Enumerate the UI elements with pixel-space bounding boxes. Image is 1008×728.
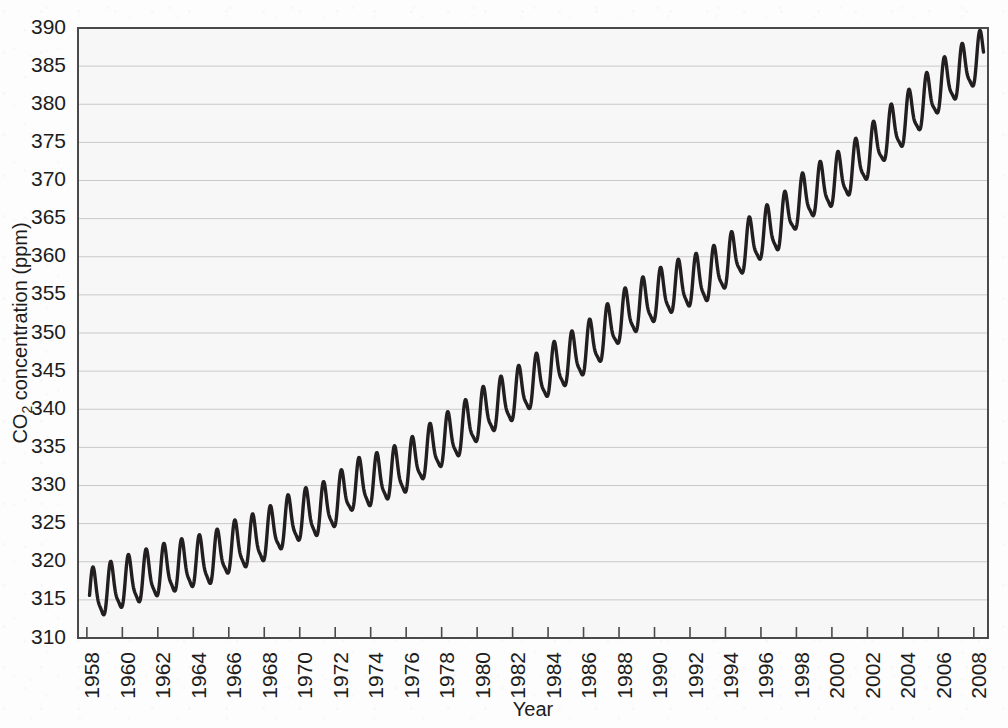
y-axis-tick-label: 340	[31, 396, 66, 419]
x-axis-tick-label: 2008	[967, 652, 990, 699]
x-axis-tick-label: 1984	[542, 652, 565, 699]
y-axis-tick-label: 390	[31, 15, 66, 38]
x-axis-tick-label: 1970	[293, 652, 316, 699]
chart-page: 3103153203253303353403453503553603653703…	[0, 0, 1008, 728]
y-axis-tick-label: 355	[31, 281, 66, 304]
x-axis-tick-label: 2002	[861, 652, 884, 699]
x-axis-title: Year	[513, 698, 554, 720]
x-axis-tick-label: 2000	[825, 652, 848, 699]
x-axis-tick-label: 1986	[577, 652, 600, 699]
x-axis-tick-label: 1958	[80, 652, 103, 699]
x-axis-tick-label: 1998	[790, 652, 813, 699]
x-axis-tick-label: 2006	[932, 652, 955, 699]
y-axis-tick-label: 350	[31, 320, 66, 343]
x-axis-tick-label: 1982	[506, 652, 529, 699]
x-axis-tick-label: 1996	[754, 652, 777, 699]
y-axis-tick-label: 315	[31, 586, 66, 609]
x-axis-tick-labels: 1958196019621964196619681970197219741976…	[80, 652, 990, 699]
y-axis-tick-label: 385	[31, 53, 66, 76]
x-axis-tick-label: 1962	[151, 652, 174, 699]
y-axis-tick-label: 365	[31, 205, 66, 228]
x-axis-tick-label: 1978	[435, 652, 458, 699]
x-axis-tick-label: 1966	[222, 652, 245, 699]
y-axis-tick-label: 310	[31, 625, 66, 648]
y-axis-tick-label: 360	[31, 243, 66, 266]
x-axis-tick-label: 1968	[258, 652, 281, 699]
x-axis-tick-label: 1974	[364, 652, 387, 699]
y-axis-tick-label: 345	[31, 358, 66, 381]
x-axis-tick-label: 1960	[116, 652, 139, 699]
x-axis-tick-label: 1990	[648, 652, 671, 699]
x-axis-tick-label: 1964	[187, 652, 210, 699]
y-axis-tick-labels: 3103153203253303353403453503553603653703…	[31, 15, 66, 648]
y-axis-title-prefix: CO	[9, 414, 31, 444]
x-axis-tick-label: 1972	[329, 652, 352, 699]
y-axis-tick-label: 370	[31, 167, 66, 190]
co2-keeling-curve-chart: 3103153203253303353403453503553603653703…	[0, 0, 1008, 728]
y-axis-tick-label: 330	[31, 472, 66, 495]
x-axis-tick-label: 1976	[400, 652, 423, 699]
x-axis-tick-label: 1992	[684, 652, 707, 699]
x-axis-tick-label: 1980	[471, 652, 494, 699]
y-axis-title-suffix: concentration (ppm)	[9, 222, 31, 405]
x-axis-tick-label: 1994	[719, 652, 742, 699]
y-axis-tick-label: 375	[31, 129, 66, 152]
y-axis-tick-label: 335	[31, 434, 66, 457]
y-axis-tick-label: 325	[31, 510, 66, 533]
x-axis-tick-label: 2004	[896, 652, 919, 699]
y-axis-tick-label: 320	[31, 548, 66, 571]
y-axis-tick-label: 380	[31, 91, 66, 114]
y-axis-title-subscript: 2	[19, 406, 35, 414]
x-axis-tick-label: 1988	[613, 652, 636, 699]
